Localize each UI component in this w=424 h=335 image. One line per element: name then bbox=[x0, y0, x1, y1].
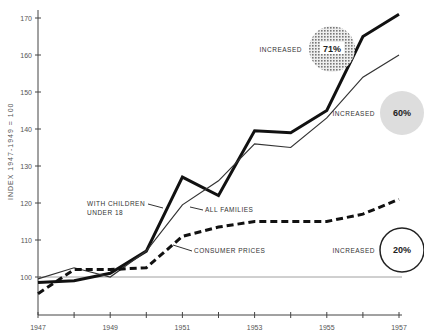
badge-label: INCREASED bbox=[333, 110, 375, 117]
arrow-with-children bbox=[148, 204, 163, 208]
badge-value: 71% bbox=[323, 44, 341, 54]
y-tick-label: 160 bbox=[20, 52, 32, 59]
chart: 100110120130140150160170INDEX 1947-1949 … bbox=[0, 0, 424, 335]
x-tick-label: 1957 bbox=[391, 324, 407, 331]
x-tick-label: 1951 bbox=[175, 324, 191, 331]
chart-svg: 100110120130140150160170INDEX 1947-1949 … bbox=[0, 0, 424, 335]
label-with-children: WITH CHILDREN bbox=[87, 200, 145, 207]
label-consumer-prices: CONSUMER PRICES bbox=[194, 247, 266, 254]
y-tick-label: 130 bbox=[20, 163, 32, 170]
badge-label: INCREASED bbox=[333, 247, 375, 254]
arrow-consumer-prices bbox=[173, 245, 192, 251]
y-tick-label: 150 bbox=[20, 89, 32, 96]
label-under-18: UNDER 18 bbox=[87, 209, 123, 216]
series-line-all-families bbox=[38, 55, 399, 279]
x-tick-label: 1949 bbox=[102, 324, 118, 331]
badge-value: 20% bbox=[393, 245, 411, 255]
badge-label: INCREASED bbox=[260, 46, 302, 53]
badge-value: 60% bbox=[393, 108, 411, 118]
y-tick-label: 110 bbox=[21, 237, 32, 244]
y-tick-label: 120 bbox=[20, 200, 32, 207]
y-axis-label: INDEX 1947-1949 = 100 bbox=[7, 103, 14, 200]
y-tick-label: 100 bbox=[20, 274, 32, 281]
label-all-families: ALL FAMILIES bbox=[205, 206, 254, 213]
x-tick-label: 1947 bbox=[30, 324, 46, 331]
y-tick-label: 170 bbox=[20, 15, 32, 22]
arrow-all-families bbox=[190, 207, 203, 210]
x-tick-label: 1953 bbox=[247, 324, 263, 331]
x-tick-label: 1955 bbox=[319, 324, 335, 331]
y-tick-label: 140 bbox=[20, 126, 32, 133]
